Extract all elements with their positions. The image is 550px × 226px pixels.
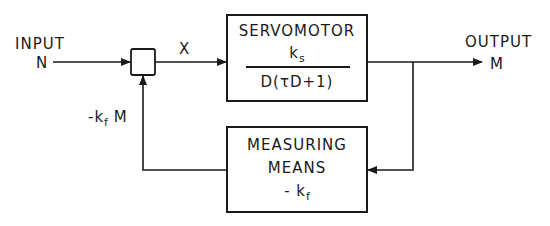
output-label: OUTPUT xyxy=(465,35,532,50)
measuring-line2: MEANS xyxy=(228,161,366,176)
measuring-line1: MEASURING xyxy=(228,138,366,153)
servomotor-denominator: D(τD+1) xyxy=(228,75,366,90)
feedback-signal-label: -kf M xyxy=(88,110,128,125)
feedback-return-line xyxy=(143,76,226,170)
numerator-k: k xyxy=(289,44,299,62)
feedback-takeoff-line xyxy=(368,62,413,170)
servomotor-numerator: ks xyxy=(228,46,366,61)
summing-junction xyxy=(131,49,155,75)
measuring-gain: - kf xyxy=(228,184,366,199)
numerator-sub: s xyxy=(299,52,305,65)
fraction-bar xyxy=(246,66,350,68)
output-symbol: M xyxy=(490,57,504,72)
input-label: INPUT xyxy=(15,37,65,52)
servomotor-block: SERVOMOTOR ks D(τD+1) xyxy=(226,14,368,102)
servomotor-title: SERVOMOTOR xyxy=(228,24,366,39)
input-symbol: N xyxy=(36,56,48,71)
measuring-means-block: MEASURING MEANS - kf xyxy=(226,126,368,213)
error-signal-label: X xyxy=(179,42,190,57)
